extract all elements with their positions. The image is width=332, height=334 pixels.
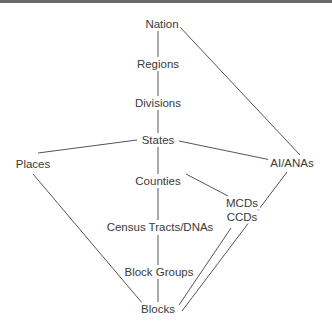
node-counties: Counties	[133, 175, 182, 188]
edge-states-aiana	[179, 141, 271, 160]
node-nation: Nation	[143, 18, 180, 31]
node-states: States	[140, 134, 177, 147]
edge-counties-mcds	[186, 174, 228, 196]
node-places: Places	[14, 158, 53, 171]
node-census-tracts: Census Tracts/DNAs	[105, 221, 216, 234]
node-blocks: Blocks	[139, 303, 177, 316]
node-block-groups: Block Groups	[122, 266, 195, 279]
node-regions: Regions	[135, 58, 181, 71]
edge-states-places	[38, 140, 137, 153]
edge-places-blocks	[33, 174, 143, 304]
edge-aiana-blocks	[182, 172, 287, 311]
edge-nation-aiana	[179, 26, 300, 155]
node-mcds: MCDs	[224, 197, 260, 210]
node-ccds: CCDs	[225, 211, 260, 224]
node-divisions: Divisions	[133, 97, 183, 110]
node-ai-anas: AI/ANAs	[268, 157, 315, 170]
